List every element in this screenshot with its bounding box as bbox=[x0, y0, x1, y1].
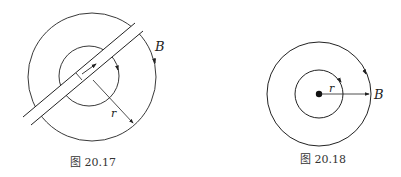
diagram-canvas: B r 图 20.17 r B 图 20.18 bbox=[0, 0, 401, 177]
figure-caption: 图 20.17 bbox=[70, 156, 116, 169]
field-label-b: B bbox=[154, 39, 165, 54]
wire-edge-bottom bbox=[31, 31, 143, 125]
field-label-b: B bbox=[373, 87, 384, 102]
radius-label-r: r bbox=[329, 82, 335, 95]
figure-20-17: B r 图 20.17 bbox=[23, 13, 165, 169]
figure-caption: 图 20.18 bbox=[300, 153, 346, 166]
figure-20-18: r B 图 20.18 bbox=[267, 42, 384, 166]
radius-label-r: r bbox=[111, 107, 117, 120]
